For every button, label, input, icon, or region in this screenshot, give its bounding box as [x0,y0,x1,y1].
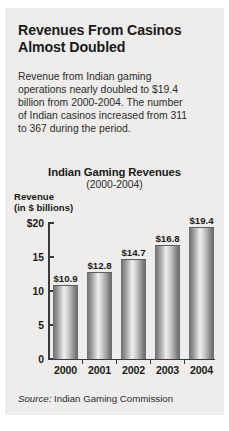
y-tick-label: 0 [4,354,44,365]
y-tick-label: $20 [4,218,44,229]
headline-line-2: Almost Doubled [18,39,214,56]
bar [87,272,112,359]
headline-line-1: Revenues From Casinos [18,22,214,39]
bar-chart: Indian Gaming Revenues (2000-2004) Reven… [5,158,224,383]
bar [121,259,146,359]
y-tick-label: 15 [4,252,44,263]
body-line-1: Revenue from Indian gaming [18,70,216,83]
bar-value-label: $10.9 [43,273,89,284]
source-note: Source: Indian Gaming Commission [18,393,173,404]
page-title: Revenues From Casinos Almost Doubled [18,22,214,56]
x-tick-mark [150,360,151,364]
y-tick-mark [50,256,54,257]
bar [155,245,180,359]
x-tick-mark [116,360,117,364]
x-tick-label: 2004 [179,364,225,376]
y-tick-label: 5 [4,320,44,331]
body-line-4: of Indian casinos increased from 311 [18,109,216,122]
bar-value-label: $14.7 [111,247,157,258]
bar [189,227,214,359]
x-tick-mark [184,360,185,364]
plot-area: $20151050$10.92000$12.82001$14.72002$16.… [5,158,224,383]
y-tick-mark [50,222,54,223]
bar-value-label: $16.8 [145,233,191,244]
body-line-2: operations nearly doubled to $19.4 [18,83,216,96]
body-line-5: to 367 during the period. [18,122,216,135]
bar [53,285,78,359]
source-label: Source: [18,393,51,404]
x-tick-mark [82,360,83,364]
infographic-card: Revenues From Casinos Almost Doubled Rev… [5,8,224,415]
y-tick-label: 10 [4,286,44,297]
source-text: Indian Gaming Commission [54,393,173,404]
bar-value-label: $19.4 [179,215,225,226]
body-text: Revenue from Indian gaming operations ne… [18,70,216,135]
bar-value-label: $12.8 [77,260,123,271]
body-line-3: billion from 2000-2004. The number [18,96,216,109]
